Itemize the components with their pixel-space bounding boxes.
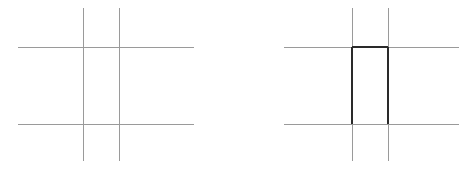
selected-cell	[352, 47, 388, 124]
figure-root	[0, 0, 466, 170]
plain-grid-panel	[0, 0, 233, 170]
plain-grid-canvas	[0, 0, 233, 170]
highlighted-grid-canvas	[233, 0, 466, 170]
highlighted-grid-panel	[233, 0, 466, 170]
